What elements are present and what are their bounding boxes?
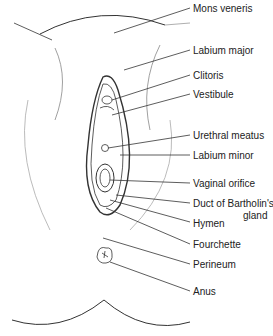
label-urethral-meatus: Urethral meatus: [193, 130, 264, 141]
anatomy-diagram: Mons veneris Labium major Clitoris Vesti…: [0, 0, 273, 336]
label-fourchette: Fourchette: [193, 239, 241, 250]
label-duct-of-bartholins-gland: Duct of Bartholin's: [193, 198, 273, 209]
label-hymen: Hymen: [193, 218, 225, 229]
label-vaginal-orifice: Vaginal orifice: [193, 178, 255, 189]
label-duct-of-bartholins-gland-line2: gland: [243, 210, 267, 221]
label-labium-minor: Labium minor: [193, 150, 254, 161]
label-anus: Anus: [193, 286, 216, 297]
label-labium-major: Labium major: [193, 45, 254, 56]
label-perineum: Perineum: [193, 259, 236, 270]
label-clitoris: Clitoris: [193, 70, 224, 81]
label-vestibule: Vestibule: [193, 89, 234, 100]
label-mons-veneris: Mons veneris: [193, 3, 252, 14]
